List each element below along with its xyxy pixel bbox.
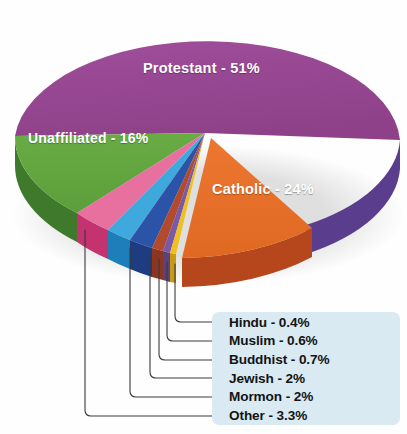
slice-wall-buddhist: [152, 248, 163, 280]
legend-item-mormon[interactable]: Mormon - 2%: [229, 387, 404, 406]
legend-label-jewish: Jewish - 2%: [229, 371, 305, 386]
legend-label-buddhist: Buddhist - 0.7%: [229, 352, 329, 367]
legend-item-jewish[interactable]: Jewish - 2%: [229, 369, 404, 388]
pie-chart-graphic: Protestant - 51% Unaffiliated - 16% Cath…: [0, 0, 407, 300]
legend-item-muslim[interactable]: Muslim - 0.6%: [229, 332, 404, 351]
slice-label-protestant: Protestant - 51%: [143, 60, 260, 76]
slice-wall-muslim: [163, 251, 170, 282]
legend-label-hindu: Hindu - 0.4%: [229, 315, 309, 330]
legend-label-other: Other - 3.3%: [229, 408, 307, 423]
slice-label-unaffiliated: Unaffiliated - 16%: [28, 130, 148, 146]
pie-svg: [0, 0, 407, 300]
legend-item-hindu[interactable]: Hindu - 0.4%: [229, 313, 404, 332]
slice-label-catholic: Catholic - 24%: [212, 181, 314, 197]
legend-label-muslim: Muslim - 0.6%: [229, 333, 318, 348]
pie-chart-figure: Protestant - 51% Unaffiliated - 16% Cath…: [0, 0, 407, 434]
legend-item-buddhist[interactable]: Buddhist - 0.7%: [229, 350, 404, 369]
legend-items: Hindu - 0.4% Muslim - 0.6% Buddhist - 0.…: [229, 313, 404, 425]
legend-item-other[interactable]: Other - 3.3%: [229, 406, 404, 425]
slice-wall-hindu: [170, 253, 176, 283]
slice-top-protestant: [15, 41, 400, 140]
legend-label-mormon: Mormon - 2%: [229, 389, 313, 404]
